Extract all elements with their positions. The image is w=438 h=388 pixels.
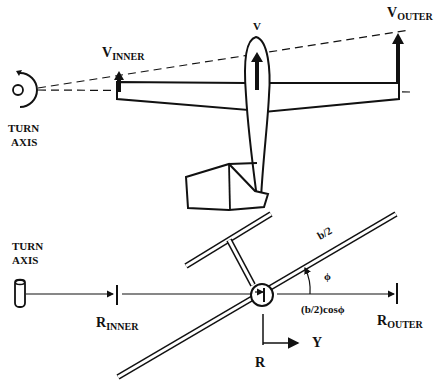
- bank-angle-label: ϕ: [324, 270, 331, 282]
- v-outer-label: VOUTER: [387, 5, 433, 22]
- y-axis-label: Y: [312, 335, 322, 350]
- r-inner-label: RINNER: [96, 315, 139, 332]
- front-turn-axis-label-line2: AXIS: [12, 254, 38, 266]
- tail-fillet: [229, 163, 257, 164]
- projected-half-span-label: (b/2)cosϕ: [301, 303, 345, 316]
- r-axis-label: R: [255, 355, 266, 370]
- r-outer-label: ROUTER: [377, 313, 423, 330]
- front-turn-axis-label-line1: TURN: [12, 240, 43, 252]
- velocity-gradient-line: [38, 30, 410, 88]
- v-center-label: V: [253, 20, 261, 32]
- v-inner-label: VINNER: [102, 45, 145, 62]
- front-view: [15, 214, 397, 377]
- right-wing: [261, 83, 399, 112]
- turn-axis-cylinder-icon: [15, 280, 25, 308]
- turn-axis-rotation-icon: [13, 70, 37, 107]
- top-turn-axis-label-line1: TURN: [8, 122, 39, 134]
- top-turn-axis-label-line2: AXIS: [11, 136, 37, 148]
- left-wing: [117, 82, 248, 110]
- bank-angle-arc: [305, 268, 310, 294]
- half-span-label: b/2: [315, 224, 334, 242]
- fuselage-section: [251, 284, 273, 306]
- turn-geometry-diagram: VINNER V VOUTER TURN AXIS: [0, 0, 438, 388]
- top-view: [13, 30, 410, 210]
